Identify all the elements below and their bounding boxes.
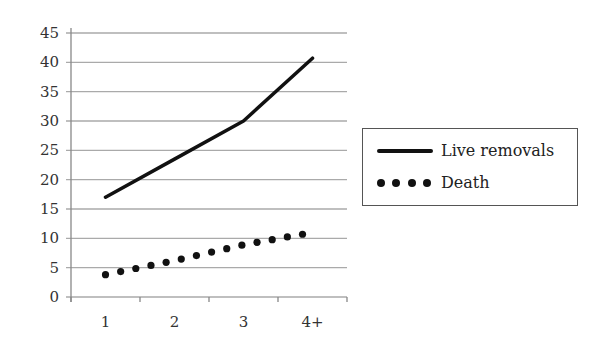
y-tick-label: 40 bbox=[40, 53, 59, 71]
gridlines bbox=[66, 33, 347, 297]
y-axis: 051015202530354045 bbox=[40, 24, 71, 306]
y-tick-label: 0 bbox=[49, 288, 59, 306]
legend-item-live-removals: Live removals bbox=[377, 141, 554, 160]
y-tick-label: 45 bbox=[40, 24, 59, 42]
x-tick-label: 2 bbox=[170, 313, 180, 331]
y-tick-label: 20 bbox=[40, 171, 59, 189]
x-tick-label: 4+ bbox=[301, 313, 323, 331]
legend-label: Live removals bbox=[441, 141, 554, 160]
x-tick-label: 1 bbox=[101, 313, 111, 331]
y-tick-label: 5 bbox=[49, 259, 59, 277]
y-tick-label: 15 bbox=[40, 200, 59, 218]
x-axis: 1234+ bbox=[71, 297, 347, 331]
solid-line-icon bbox=[377, 144, 435, 158]
dotted-line-icon bbox=[377, 176, 435, 190]
y-tick-label: 30 bbox=[40, 112, 59, 130]
legend: Live removals Death bbox=[362, 128, 578, 206]
y-tick-label: 35 bbox=[40, 83, 59, 101]
legend-label: Death bbox=[441, 173, 490, 192]
legend-item-death: Death bbox=[377, 173, 490, 192]
x-tick-label: 3 bbox=[239, 313, 249, 331]
y-tick-label: 10 bbox=[40, 229, 59, 247]
y-tick-label: 25 bbox=[40, 141, 59, 159]
series-live-removals bbox=[106, 58, 313, 197]
